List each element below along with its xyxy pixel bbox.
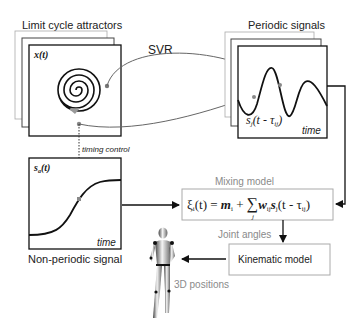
figure-head bbox=[159, 228, 168, 239]
signal-point-2 bbox=[278, 83, 282, 87]
sigmoid-timing-point bbox=[77, 197, 81, 201]
mixing-model-title: Mixing model bbox=[215, 176, 274, 187]
limit-cycle-title: Limit cycle attractors bbox=[22, 19, 123, 31]
hip-marker bbox=[156, 264, 170, 266]
timing-control-label: timing control bbox=[82, 145, 130, 154]
nonperiodic-title: Non-periodic signal bbox=[28, 253, 122, 265]
nonperiodic-time-axis-label: time bbox=[97, 237, 116, 248]
3d-positions-label: 3D positions bbox=[174, 279, 229, 290]
periodic-to-mixing-arrow bbox=[327, 86, 345, 204]
periodic-title: Periodic signals bbox=[248, 19, 326, 31]
kinematic-group: Joint angles Kinematic model bbox=[182, 229, 330, 275]
joint-marker bbox=[167, 289, 170, 292]
joint-marker bbox=[170, 241, 174, 245]
limit-cycle-group: Limit cycle attractors x(t) bbox=[15, 19, 123, 136]
periodic-time-axis-label: time bbox=[302, 125, 321, 136]
figure-torso bbox=[155, 240, 171, 267]
joint-marker bbox=[154, 290, 157, 293]
signal-point-1 bbox=[252, 95, 256, 99]
kinematic-model-label: Kinematic model bbox=[238, 254, 312, 265]
joint-angles-label: Joint angles bbox=[218, 229, 271, 240]
nonperiodic-panel-label: sa(t) bbox=[33, 162, 50, 174]
sum-subscript: j bbox=[251, 213, 254, 221]
joint-marker bbox=[153, 241, 157, 245]
mixing-equation: ξi(t) = mi + ∑wijsj(t - τij) bbox=[187, 195, 310, 213]
humanoid-figure bbox=[150, 228, 176, 319]
attractor-label: x(t) bbox=[33, 49, 48, 61]
joint-marker bbox=[150, 257, 153, 260]
svr-motion-diagram: Limit cycle attractors x(t) SVR Periodic… bbox=[0, 0, 362, 336]
